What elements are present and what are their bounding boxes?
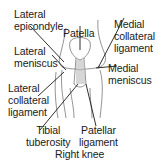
label-tibial-tuberosity: Tibial tuberosity xyxy=(26,124,71,148)
label-patellar-ligament: Patellar ligament xyxy=(79,124,118,148)
diagram-title: Right knee xyxy=(55,148,104,160)
label-medial-meniscus: Medial meniscus xyxy=(108,62,152,86)
label-lateral-meniscus: Lateral meniscus xyxy=(14,45,58,69)
label-medial-collateral-ligament: Medial collateral ligament xyxy=(114,18,155,54)
label-lateral-collateral-ligament: Lateral collateral ligament xyxy=(8,82,49,118)
label-patella: Patella xyxy=(63,27,94,39)
label-lateral-epicondyle: Lateral epicondyle xyxy=(14,8,63,32)
